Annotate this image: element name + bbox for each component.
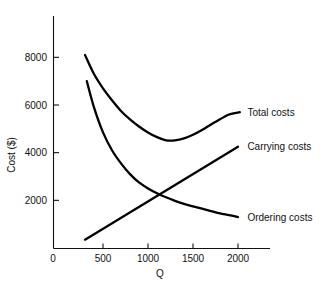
x-tick-label: 0 (50, 253, 56, 264)
series-curves (85, 55, 240, 240)
cost-chart: 2000400060008000 0500100015002000 Q Cost… (0, 0, 322, 295)
y-tick-label: 2000 (25, 195, 48, 206)
series-curve-carrying-costs (85, 147, 238, 240)
series-label-carrying-costs: Carrying costs (247, 141, 311, 152)
y-tick-label: 6000 (25, 100, 48, 111)
chart-canvas: 2000400060008000 0500100015002000 Q Cost… (0, 0, 322, 295)
y-tick-label: 4000 (25, 147, 48, 158)
x-tick-label: 2000 (227, 253, 250, 264)
y-axis-title: Cost ($) (6, 137, 17, 173)
series-annotations: Total costsCarrying costsOrdering costs (247, 107, 312, 223)
x-axis-tick-labels: 0500100015002000 (50, 253, 249, 264)
x-axis-ticks (103, 244, 238, 249)
y-axis-tick-labels: 2000400060008000 (25, 52, 48, 206)
series-label-ordering-costs: Ordering costs (247, 212, 312, 223)
x-tick-label: 1500 (182, 253, 205, 264)
y-axis-ticks (54, 57, 60, 200)
x-axis-title: Q (156, 268, 164, 279)
series-curve-ordering-costs (87, 81, 238, 217)
axes (54, 16, 271, 249)
series-label-total-costs: Total costs (247, 107, 294, 118)
x-tick-label: 500 (95, 253, 112, 264)
x-tick-label: 1000 (137, 253, 160, 264)
series-curve-total-costs (85, 55, 240, 141)
y-tick-label: 8000 (25, 52, 48, 63)
